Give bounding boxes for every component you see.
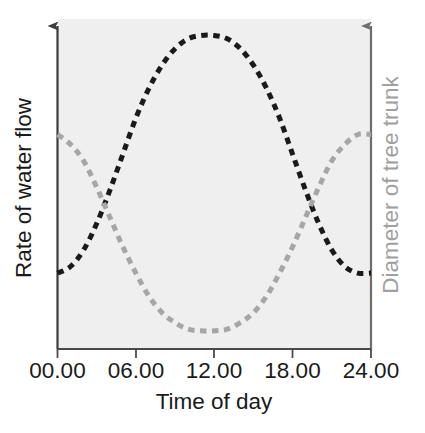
x-tick-marks [58,349,372,358]
chart-figure: 00.00 06.00 12.00 18.00 24.00 Time of da… [0,0,425,433]
x-tick-labels: 00.00 06.00 12.00 18.00 24.00 [29,358,399,383]
x-tick-label-2: 12.00 [186,358,242,383]
right-axis-title: Diameter of tree trunk [378,75,403,293]
chart-canvas: 00.00 06.00 12.00 18.00 24.00 Time of da… [0,0,425,433]
x-axis-title: Time of day [156,389,273,414]
x-tick-label-4: 24.00 [343,358,399,383]
plot-area-background [58,19,372,349]
x-tick-label-3: 18.00 [264,358,320,383]
x-tick-label-0: 00.00 [29,358,85,383]
x-tick-label-1: 06.00 [108,358,164,383]
left-axis-title: Rate of water flow [11,97,36,278]
